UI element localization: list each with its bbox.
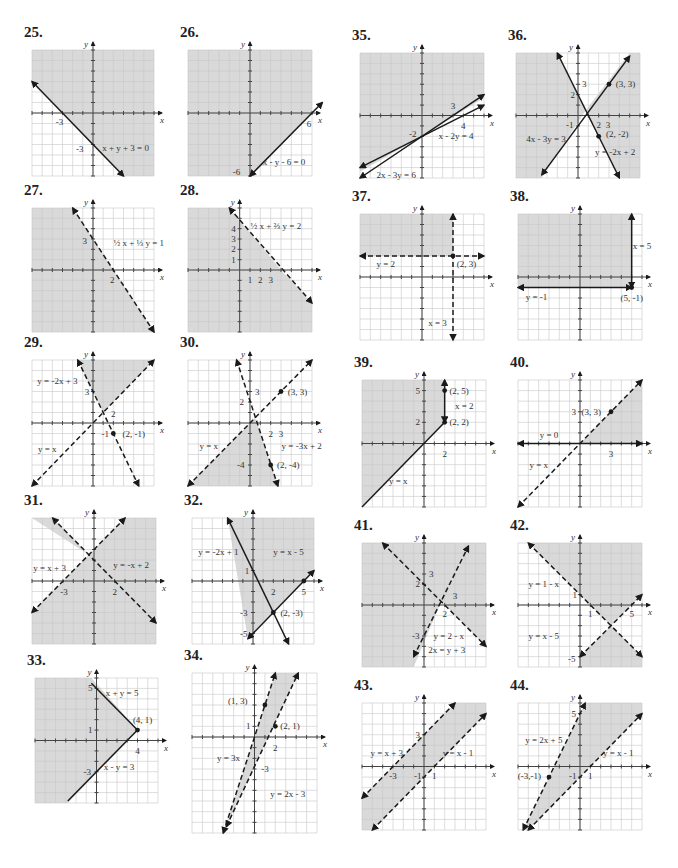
- graph-label: -1: [414, 771, 422, 781]
- x-axis-label: x: [319, 583, 324, 593]
- y-axis-label: y: [243, 507, 248, 517]
- graph-label: 1: [248, 275, 253, 285]
- graph-label: y = x - 1: [443, 748, 474, 758]
- y-axis-label: y: [412, 203, 417, 213]
- graph-label: 1: [231, 255, 236, 265]
- x-axis-label: x: [647, 607, 652, 617]
- inequality-graph-37: xyy = 2(2, 3)x = 3: [360, 214, 484, 340]
- graph-label: 5: [416, 386, 421, 396]
- point-marker: [301, 579, 306, 584]
- x-axis-label: x: [491, 607, 496, 617]
- graph-label: y = -2x + 2: [595, 147, 635, 157]
- solution-region: [518, 214, 632, 288]
- graph-label: y = x: [389, 476, 408, 486]
- graph-label: 6: [307, 119, 312, 129]
- graph-label: (3, 3): [288, 387, 308, 397]
- y-axis-label: y: [87, 667, 92, 677]
- inequality-graph-38: xyx = 5y = -1(5, -1): [518, 214, 642, 340]
- inequality-graph-41: xy3232-3y = 2 - x2x = y + 3: [362, 543, 486, 667]
- graph-label: 2: [271, 587, 276, 597]
- problem-number: 28.: [180, 182, 199, 199]
- point-marker: [271, 610, 276, 615]
- graph-label: 4x - 3y = 3: [526, 134, 566, 144]
- graph-label: 2: [571, 90, 576, 100]
- inequality-graph-27: xy32½ x + ⅓ y = 1: [32, 208, 154, 332]
- x-axis-label: x: [489, 279, 494, 289]
- problem-number: 35.: [352, 27, 371, 44]
- graph-label: 2: [239, 397, 244, 407]
- y-axis-label: y: [568, 42, 573, 52]
- graph-label: -3: [84, 767, 92, 777]
- graph-label: 2: [273, 743, 278, 753]
- point-marker: [547, 775, 552, 780]
- inequality-graph-34: xy(1, 3)1(2, 1)2y = 3x-3y = 2x - 3: [192, 673, 317, 833]
- graph-label: y = 2x - 3: [270, 789, 306, 799]
- graph-label: y = x - 5: [529, 631, 560, 641]
- problem-number: 37.: [352, 188, 371, 205]
- graph-label: (-3,-1): [518, 771, 541, 781]
- problem-number: 38.: [510, 188, 529, 205]
- graph-label: -5: [240, 629, 248, 639]
- graph-label: (2, -1): [122, 429, 144, 439]
- y-axis-label: y: [240, 349, 245, 359]
- y-axis-label: y: [414, 369, 419, 379]
- graph-label: -3: [60, 587, 68, 597]
- graph-label: -3: [261, 764, 269, 774]
- graph-label: 5: [629, 609, 634, 619]
- problem-number: 40.: [510, 354, 529, 371]
- x-axis-label: x: [317, 425, 322, 435]
- graph-label: -1: [101, 429, 109, 439]
- point-marker: [609, 409, 614, 414]
- x-axis-label: x: [159, 272, 164, 282]
- graph-label: y = -1: [526, 292, 548, 302]
- graph-label: y = 3x: [217, 753, 241, 763]
- graph-label: x + y = 5: [106, 688, 139, 698]
- graph-label: 4: [461, 121, 466, 131]
- x-axis-label: x: [647, 279, 652, 289]
- graph-label: 3: [572, 407, 577, 417]
- graph-label: -1: [569, 771, 577, 781]
- y-axis-label: y: [83, 349, 88, 359]
- graph-label: ½ x + ⅓ y = 1: [113, 238, 164, 248]
- point-marker: [596, 134, 601, 139]
- graph-label: -1: [566, 120, 574, 130]
- point-marker: [268, 463, 273, 468]
- graph-label: 3: [85, 387, 90, 397]
- y-axis-label: y: [84, 507, 89, 517]
- inequality-graph-28: xy4321123½ x + ⅔ y = 2: [188, 208, 312, 332]
- graph-label: x = 3: [428, 318, 447, 328]
- graph-label: 1: [88, 725, 93, 735]
- graph-label: (2, 5): [449, 386, 469, 396]
- graph-label: y = x - 5: [273, 547, 304, 557]
- graph-label: 2: [416, 417, 421, 427]
- graph-label: 3: [582, 79, 587, 89]
- graph-label: 2: [111, 409, 116, 419]
- graph-label: 3: [451, 101, 456, 111]
- y-axis-label: y: [245, 662, 250, 672]
- problem-number: 39.: [354, 354, 373, 371]
- point-marker: [135, 728, 140, 733]
- graph-label: x + y + 3 = 0: [102, 143, 149, 153]
- problem-number: 26.: [180, 24, 199, 41]
- inequality-graph-35: xy34-2x - 2y = 42x - 3y = 6: [360, 53, 484, 178]
- graph-label: (2, -4): [277, 460, 300, 470]
- graph-label: 1: [573, 590, 578, 600]
- solution-region: [78, 360, 154, 413]
- graph-label: x = 2: [455, 401, 474, 411]
- graph-label: -6: [233, 167, 241, 177]
- graph-label: 2x - 3y = 6: [376, 170, 416, 180]
- graph-label: 3: [279, 429, 284, 439]
- problem-number: 34.: [184, 647, 203, 664]
- graph-label: 5: [88, 683, 93, 693]
- graph-label: y = 2x + 5: [525, 735, 563, 745]
- graph-label: y = 1 - x: [529, 579, 560, 589]
- inequality-graph-44: xy5y = 2x + 5y = x - 1(-3,-1)-11: [518, 703, 642, 830]
- graph-label: 3: [255, 387, 260, 397]
- graph-label: (2, 3): [457, 259, 477, 269]
- graph-label: 3: [83, 236, 88, 246]
- graph-label: 2x = y + 3: [428, 645, 466, 655]
- problem-number: 44.: [510, 677, 529, 694]
- graph-label: 3: [453, 591, 458, 601]
- graph-label: 2: [268, 429, 273, 439]
- x-axis-label: x: [159, 425, 164, 435]
